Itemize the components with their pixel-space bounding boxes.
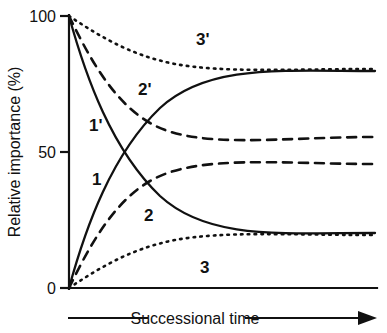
curve-label-3-prime: 3' [196,30,210,49]
y-tick-label-100: 100 [29,8,56,25]
x-axis-arrow-icon [358,311,377,325]
chart-canvas: 100 50 0 Relative importance (%) 3' 2' 1… [0,0,387,333]
y-tick-label-0: 0 [47,280,56,297]
curve-2 [69,162,375,288]
y-axis-title: Relative importance (%) [6,67,23,238]
curve-label-1: 1 [92,170,101,189]
curve-label-1-prime: 1' [89,116,103,135]
curve-label-2-prime: 2' [138,80,152,99]
y-tick-label-50: 50 [38,144,56,161]
curve-label-3: 3 [200,258,209,277]
successional-importance-figure: 100 50 0 Relative importance (%) 3' 2' 1… [0,0,387,333]
x-axis-title: Successional time [131,310,260,327]
curve-1-prime [69,16,375,233]
curve-3 [69,234,375,288]
curve-3-prime [69,16,375,70]
curve-1 [69,71,375,288]
curve-label-2: 2 [144,206,153,225]
